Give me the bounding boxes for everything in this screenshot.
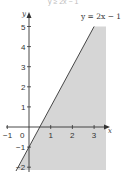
y-axis-arrow-icon — [27, 12, 32, 18]
y-tick-label: 2 — [21, 83, 26, 92]
shaded-region — [18, 27, 106, 171]
x-tick-label: 3 — [92, 131, 97, 140]
y-tick-label: 5 — [21, 23, 26, 32]
x-tick-label: 2 — [70, 131, 75, 140]
inequality-graph: y ≥ 2x − 1 x y −1 0 1 2 3 5 4 3 2 1 −1 −… — [0, 0, 121, 187]
y-tick-label: 4 — [21, 43, 26, 52]
origin-label: 0 — [20, 131, 25, 140]
caption-partial: y ≥ 2x − 1 — [48, 0, 79, 6]
x-tick-label: −1 — [3, 131, 13, 140]
equation-label: y = 2x − 1 — [80, 12, 121, 21]
x-axis-label: x — [108, 127, 112, 135]
y-tick-label: −1 — [16, 143, 26, 152]
y-tick-label: 1 — [21, 103, 26, 112]
y-tick-label: −2 — [16, 163, 26, 172]
x-tick-label: 1 — [49, 131, 54, 140]
y-tick-label: 3 — [21, 63, 26, 72]
y-axis-label: y — [21, 10, 27, 18]
